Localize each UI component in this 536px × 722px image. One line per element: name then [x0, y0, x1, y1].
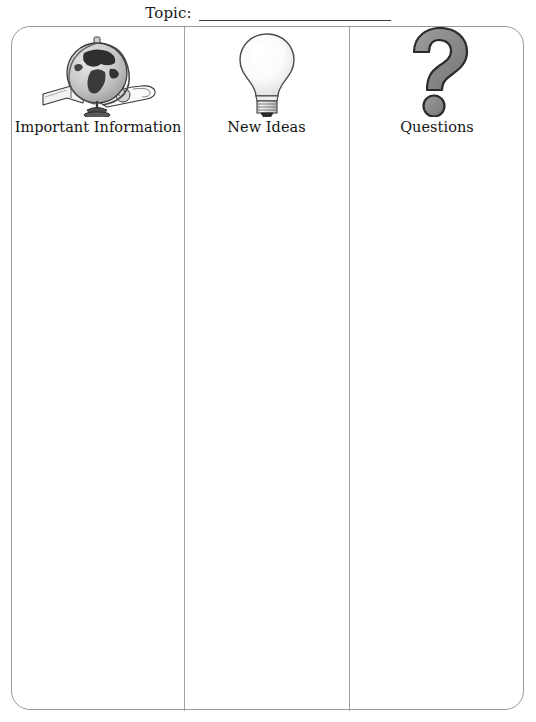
column-new-ideas: New Ideas: [184, 27, 349, 711]
lightbulb-icon-wrapper: [184, 29, 349, 117]
writing-area-questions[interactable]: [349, 143, 525, 711]
column-questions: Questions: [349, 27, 525, 711]
question-mark-icon: [402, 27, 472, 117]
topic-input-blank[interactable]: [199, 6, 391, 21]
question-mark-icon-wrapper: [349, 27, 525, 117]
writing-area-new-ideas[interactable]: [184, 143, 349, 711]
globe-icon-wrapper: [12, 29, 184, 117]
lightbulb-icon: [230, 31, 304, 117]
column-important-information: Important Information: [12, 27, 184, 711]
writing-area-important-information[interactable]: [12, 143, 184, 711]
column-heading-questions: Questions: [349, 119, 525, 135]
graphic-organizer-frame: Important Information: [11, 26, 524, 710]
column-heading-important-information: Important Information: [12, 119, 184, 135]
column-heading-new-ideas: New Ideas: [184, 119, 349, 135]
globe-icon: [37, 31, 159, 117]
topic-label: Topic:: [145, 4, 191, 22]
topic-row: Topic:: [0, 1, 536, 25]
